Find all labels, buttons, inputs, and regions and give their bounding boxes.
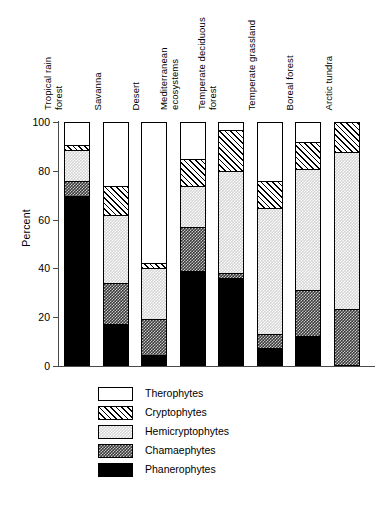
category-label-text: Tropical rain forest	[43, 0, 64, 110]
segment-chamaephytes	[181, 227, 205, 271]
category-label-text: Desert	[131, 0, 142, 110]
category-label-text: Arctic tundra	[323, 0, 334, 110]
segment-chamaephytes	[335, 309, 359, 365]
segment-cryptophytes	[335, 123, 359, 152]
segment-hemicryptophytes	[296, 169, 320, 290]
y-tick-label-60: 60	[22, 215, 50, 225]
segment-chamaephytes	[65, 181, 89, 196]
legend-label: Chamaephytes	[145, 445, 216, 456]
segment-therophytes	[104, 123, 128, 186]
segment-cryptophytes	[219, 130, 243, 171]
legend-label: Therophytes	[145, 388, 203, 399]
legend-swatch-therophytes	[98, 387, 133, 401]
segment-phanerophytes	[181, 271, 205, 365]
legend-item-cryptophytes[interactable]: Cryptophytes	[98, 403, 278, 422]
category-label-tropical-rain-forest: Tropical rain forest	[64, 0, 90, 116]
bar-temperate-grassland[interactable]	[257, 122, 283, 366]
segment-chamaephytes	[296, 290, 320, 336]
segment-therophytes	[219, 123, 243, 130]
segment-cryptophytes	[258, 181, 282, 208]
segment-hemicryptophytes	[219, 171, 243, 273]
segment-chamaephytes	[104, 283, 128, 324]
x-axis-line	[58, 366, 375, 367]
segment-chamaephytes	[258, 334, 282, 349]
segment-hemicryptophytes	[142, 268, 166, 319]
y-tick-label-100: 100	[22, 117, 50, 127]
legend-item-chamaephytes[interactable]: Chamaephytes	[98, 441, 278, 460]
bar-savanna[interactable]	[103, 122, 129, 366]
category-label-temperate-grassland: Temperate grassland	[257, 0, 283, 116]
y-tick-100	[53, 122, 58, 123]
category-label-text: Savanna	[92, 0, 103, 110]
segment-therophytes	[296, 123, 320, 142]
segment-phanerophytes	[219, 278, 243, 365]
y-tick-label-40: 40	[22, 263, 50, 273]
segment-phanerophytes	[296, 336, 320, 365]
segment-cryptophytes	[181, 159, 205, 186]
y-tick-20	[53, 317, 58, 318]
legend-swatch-cryptophytes	[98, 406, 133, 420]
plot-area	[60, 122, 375, 366]
legend-label: Phanerophytes	[145, 464, 216, 475]
segment-hemicryptophytes	[335, 152, 359, 309]
segment-hemicryptophytes	[104, 215, 128, 283]
y-tick-40	[53, 268, 58, 269]
y-tick-label-80: 80	[22, 166, 50, 176]
bar-temperate-deciduous-forest[interactable]	[218, 122, 244, 366]
legend-swatch-hemicryptophytes	[98, 425, 133, 439]
category-label-text: Mediterranean ecosystems	[159, 0, 180, 110]
category-label-temperate-deciduous-forest: Temperate deciduous forest	[218, 0, 244, 116]
segment-phanerophytes	[65, 196, 89, 365]
bar-arctic-tundra[interactable]	[334, 122, 360, 366]
legend-item-therophytes[interactable]: Therophytes	[98, 384, 278, 403]
segment-therophytes	[142, 123, 166, 263]
segment-phanerophytes	[258, 348, 282, 365]
segment-therophytes	[65, 123, 89, 145]
segment-therophytes	[181, 123, 205, 159]
y-tick-label-0: 0	[22, 361, 50, 371]
segment-phanerophytes	[142, 355, 166, 365]
segment-hemicryptophytes	[65, 150, 89, 181]
y-axis-line	[58, 121, 59, 367]
category-label-savanna: Savanna	[103, 0, 129, 116]
bar-tropical-rain-forest[interactable]	[64, 122, 90, 366]
segment-phanerophytes	[104, 324, 128, 365]
category-label-boreal-forest: Boreal forest	[295, 0, 321, 116]
legend-label: Cryptophytes	[145, 407, 207, 418]
legend: TherophytesCryptophytesHemicryptophytesC…	[98, 384, 278, 479]
segment-hemicryptophytes	[258, 208, 282, 334]
y-tick-label-20: 20	[22, 312, 50, 322]
segment-chamaephytes	[142, 319, 166, 355]
y-tick-60	[53, 220, 58, 221]
category-label-text: Boreal forest	[285, 0, 296, 110]
chart-figure: Percent 020406080100 Tropical rain fores…	[0, 0, 389, 505]
bar-desert[interactable]	[141, 122, 167, 366]
legend-item-phanerophytes[interactable]: Phanerophytes	[98, 460, 278, 479]
legend-swatch-phanerophytes	[98, 463, 133, 477]
legend-item-hemicryptophytes[interactable]: Hemicryptophytes	[98, 422, 278, 441]
segment-hemicryptophytes	[181, 186, 205, 227]
y-tick-0	[53, 366, 58, 367]
category-label-arctic-tundra: Arctic tundra	[334, 0, 360, 116]
category-label-text: Temperate grassland	[246, 0, 257, 110]
segment-cryptophytes	[296, 142, 320, 169]
bar-boreal-forest[interactable]	[295, 122, 321, 366]
category-label-text: Temperate deciduous forest	[197, 0, 218, 110]
legend-label: Hemicryptophytes	[145, 426, 229, 437]
legend-swatch-chamaephytes	[98, 444, 133, 458]
segment-therophytes	[258, 123, 282, 181]
bar-mediterranean-ecosystems[interactable]	[180, 122, 206, 366]
segment-cryptophytes	[104, 186, 128, 215]
y-tick-80	[53, 171, 58, 172]
y-axis-title: Percent	[20, 188, 32, 268]
